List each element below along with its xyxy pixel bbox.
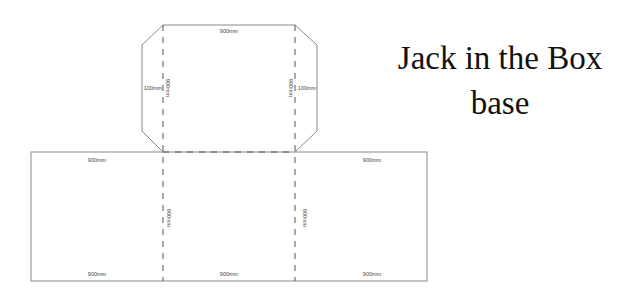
base-bottom-right-label: 900mm [363, 271, 382, 277]
base-bottom-center-label: 900mm [220, 271, 239, 277]
right-tab-width-label: 100mm [298, 85, 317, 91]
base-top-left-label: 900mm [88, 157, 107, 163]
diagram-title: Jack in the Box base [380, 36, 620, 126]
title-line-2: base [380, 81, 620, 126]
top-flap-width-label: 900mm [220, 28, 239, 34]
base-outline [31, 152, 427, 281]
base-bottom-left-label: 900mm [88, 271, 107, 277]
top-flap-left-height-label: 900mm [165, 79, 171, 98]
title-line-1: Jack in the Box [380, 36, 620, 81]
base-left-height-label: 900mm [166, 209, 172, 228]
base-right-height-label: 900mm [302, 209, 308, 228]
top-flap-right-height-label: 900mm [288, 79, 294, 98]
left-tab-width-label: 100mm [144, 85, 163, 91]
base-top-right-label: 900mm [363, 157, 382, 163]
